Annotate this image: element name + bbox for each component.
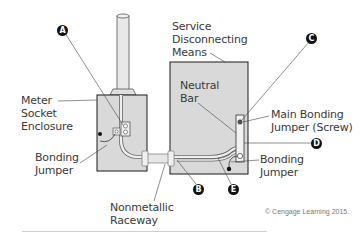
label-bonding-jumper-right: Bonding Jumper (260, 153, 304, 179)
label-nonmetallic-raceway: Nonmetallic Raceway (110, 201, 173, 227)
callout-a: A (57, 25, 68, 36)
callout-e: E (228, 184, 239, 195)
label-bonding-jumper-left: Bonding Jumper (35, 151, 79, 177)
label-neutral-bar: Neutral Bar (180, 79, 219, 105)
label-main-bonding-jumper: Main Bonding Jumper (Screw) (271, 108, 353, 134)
label-service-disconnecting-means: Service Disconnecting Means (172, 20, 248, 59)
label-meter-socket-enclosure: Meter Socket Enclosure (21, 94, 73, 133)
nonmetallic-raceway (142, 151, 174, 166)
callout-d: D (311, 138, 322, 149)
bottom-divider (22, 231, 267, 232)
bonding-point-left (98, 132, 102, 136)
neutral-bar (236, 115, 244, 162)
bonding-point-right (227, 167, 231, 171)
copyright-notice: © Cengage Learning 2015. (265, 208, 349, 215)
service-mast (110, 14, 136, 95)
callout-b: B (193, 184, 204, 195)
callout-c: C (306, 33, 317, 44)
